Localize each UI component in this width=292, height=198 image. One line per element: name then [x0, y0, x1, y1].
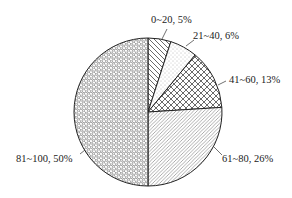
slice-label-41-60: 41~60, 13%: [229, 74, 280, 86]
slice-label-61-80: 61~80, 26%: [222, 153, 273, 165]
slice-61-80: [148, 107, 222, 186]
slice-81-100: [74, 38, 148, 186]
slice-label-0-20: 0~20, 5%: [151, 14, 192, 26]
slice-label-81-100: 81~100, 50%: [16, 153, 72, 165]
slice-label-21-40: 21~40, 6%: [193, 30, 239, 42]
pie-slices: [74, 38, 222, 186]
pie-chart: [0, 0, 292, 198]
